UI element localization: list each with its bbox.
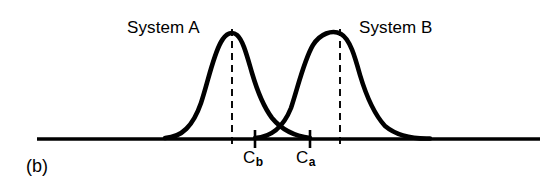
curve-system-b: [255, 32, 430, 138]
tick-label-ca-main: C: [296, 148, 308, 167]
tick-label-ca: Ca: [296, 149, 315, 166]
curve-system-a: [165, 33, 310, 138]
tick-label-cb: Cb: [243, 149, 263, 166]
panel-label: (b): [26, 157, 48, 175]
tick-label-cb-subscript: b: [256, 155, 263, 169]
distribution-plot: [0, 0, 552, 187]
annotation-system-a: System A: [127, 19, 200, 36]
annotation-system-b: System B: [359, 19, 433, 36]
figure-panel-b: System A System B Cb Ca (b): [0, 0, 552, 187]
tick-label-ca-subscript: a: [309, 155, 316, 169]
tick-label-cb-main: C: [243, 148, 255, 167]
